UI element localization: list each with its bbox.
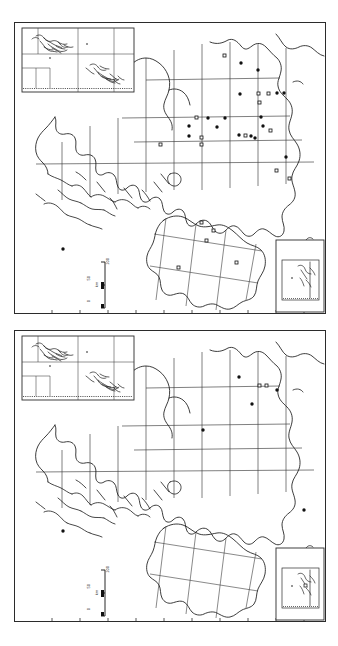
data-point-filled [275,91,278,94]
scalebar-label-50: 50 [86,276,91,280]
inset-northwest [22,28,134,92]
data-point-filled [302,508,305,511]
data-point-open [195,116,198,119]
data-point-filled [282,91,285,94]
data-point-filled [261,124,264,127]
scalebar-unit: km [94,282,99,287]
inset-point [291,277,293,279]
data-point-filled [250,402,253,405]
data-point-open [200,136,203,139]
scalebar-label-100: 100 [105,258,110,265]
data-point-open [200,143,203,146]
inset-southeast-frame [276,548,324,620]
data-point-open [159,143,162,146]
inset-southeast [276,240,324,312]
figure-sheet: 100 50 0 km [0,0,338,646]
upper-map-panel: 100 50 0 km [14,22,326,314]
data-point-open [288,177,291,180]
data-point-filled [201,428,204,431]
inset-point [291,585,293,587]
data-point-filled [253,136,256,139]
scalebar-lower: 100 50 0 km [86,568,112,618]
scalebar-label-100: 100 [105,566,110,573]
data-point-filled [187,124,190,127]
data-point-filled [206,116,209,119]
data-point-open [265,384,268,387]
lower-map-graphic [14,330,326,622]
lower-map-panel: 100 50 0 km [14,330,326,622]
data-point-filled [275,388,278,391]
data-point-filled [61,247,64,250]
scalebar-unit: km [94,590,99,595]
data-point-open [205,239,208,242]
data-point-filled [223,116,226,119]
data-point-filled [237,375,240,378]
data-point-filled [249,134,252,137]
inset-southeast-frame [276,240,324,312]
inset-point-open [304,584,307,587]
scalebar-label-0: 0 [86,608,91,610]
data-point-open [235,261,238,264]
data-point-open [258,101,261,104]
data-point-filled [256,68,259,71]
data-point-filled [239,61,242,64]
scalebar-label-50: 50 [86,584,91,588]
data-point-open [244,134,247,137]
data-point-open [212,229,215,232]
data-point-open [269,129,272,132]
data-point-filled [215,125,218,128]
data-point-open [223,54,226,57]
data-point-open [177,266,180,269]
data-point-open [267,92,270,95]
data-point-filled [238,92,241,95]
data-point-filled [284,155,287,158]
data-point-filled [61,529,64,532]
data-point-filled [187,134,190,137]
upper-map-graphic [14,22,326,314]
scalebar-lower-graphic [86,568,112,618]
inset-point [49,365,51,367]
scalebar-upper: 100 50 0 km [86,260,112,310]
inset-southeast [276,548,324,620]
data-point-open [257,92,260,95]
data-point-open [258,384,261,387]
inset-northwest [22,336,134,400]
scalebar-upper-graphic [86,260,112,310]
inset-point [49,57,51,59]
data-point-open [275,169,278,172]
data-point-filled [237,133,240,136]
inset-point [86,43,88,45]
data-point-filled [259,115,262,118]
inset-point [86,351,88,353]
scalebar-label-0: 0 [86,300,91,302]
data-point-open [200,221,203,224]
